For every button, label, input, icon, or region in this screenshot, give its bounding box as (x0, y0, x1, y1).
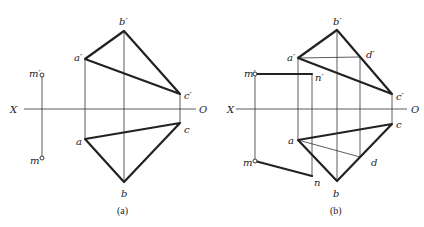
axis-label-o: O (411, 104, 419, 115)
caption-a: (a) (117, 205, 128, 217)
label-b-prime: b′ (119, 16, 128, 27)
label-b: b (333, 188, 339, 199)
line-m-n (255, 161, 312, 176)
projection-diagram: X O b′ a′ c′ a b c m′ m (a) X O b′ a′ (0, 0, 424, 227)
label-m-prime: m′ (244, 68, 256, 79)
label-c: c (396, 119, 402, 130)
label-a: a (76, 136, 82, 147)
label-n-prime: n′ (315, 72, 324, 83)
panel-a: X O b′ a′ c′ a b c m′ m (a) (9, 16, 207, 217)
line-a-prime-d-prime (298, 57, 360, 58)
point-m (40, 156, 44, 160)
triangle-front-view (85, 31, 180, 94)
label-m: m (30, 155, 39, 166)
label-m: m (243, 157, 252, 168)
label-a: a (288, 135, 294, 146)
axis-label-x: X (9, 104, 18, 115)
label-b: b (121, 188, 127, 199)
label-a-prime: a′ (287, 52, 296, 63)
label-c-prime: c′ (396, 91, 405, 102)
label-d: d (371, 157, 377, 168)
label-b-prime: b′ (333, 16, 342, 27)
axis-label-o: O (199, 104, 207, 115)
caption-b: (b) (330, 205, 342, 217)
axis-label-x: X (226, 104, 235, 115)
label-m-prime: m′ (29, 68, 41, 79)
label-n: n (314, 177, 320, 188)
triangle-top-view (85, 123, 180, 182)
label-c: c (184, 124, 190, 135)
label-c-prime: c′ (184, 90, 193, 101)
label-d-prime: d′ (366, 49, 375, 60)
label-a-prime: a′ (74, 52, 83, 63)
panel-b: X O b′ a′ d′ c′ m′ n′ a b c d m n (b) (226, 16, 419, 217)
point-m (253, 159, 257, 163)
